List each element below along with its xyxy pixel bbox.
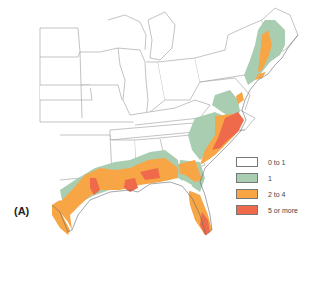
legend-swatch (236, 189, 258, 199)
eastern-us-map (0, 0, 309, 291)
panel-label: (A) (14, 205, 29, 217)
legend-item-5-or-more: 5 or more (236, 203, 298, 217)
legend-label: 1 (268, 175, 272, 182)
legend-label: 2 to 4 (268, 191, 286, 198)
legend-label: 0 to 1 (268, 159, 286, 166)
legend-item-0-to-1: 0 to 1 (236, 155, 298, 169)
legend-item-1: 1 (236, 171, 298, 185)
map-legend: 0 to 1 1 2 to 4 5 or more (236, 155, 298, 219)
legend-swatch (236, 205, 258, 215)
legend-swatch (236, 173, 258, 183)
legend-label: 5 or more (268, 207, 298, 214)
legend-swatch (236, 157, 258, 167)
legend-item-2-to-4: 2 to 4 (236, 187, 298, 201)
